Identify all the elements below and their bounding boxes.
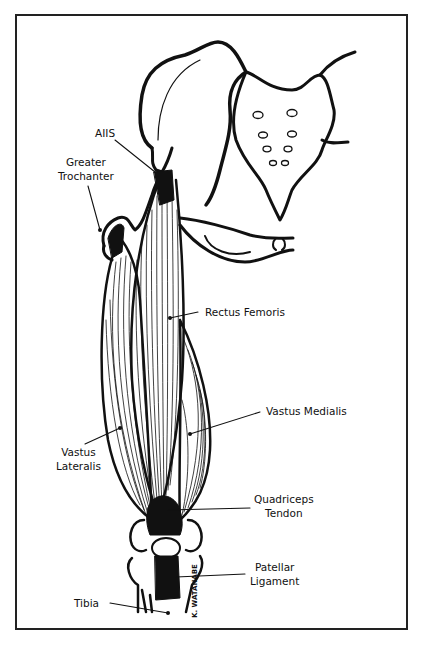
sacral-foramen [263,146,271,152]
label-line: Patellar [250,560,299,574]
label-vastus-medialis: Vastus Medialis [266,404,347,418]
sacral-foramen [282,161,289,166]
label-aiis: AIIS [95,126,115,140]
label-quadriceps-tendon: Quadriceps Tendon [254,492,314,520]
quadriceps-tendon [147,496,182,535]
label-line: Tendon [254,506,314,520]
quadriceps-illustration: K. WATANABE [0,0,421,661]
sacral-foramen [253,112,263,119]
sacral-foramen [287,110,297,117]
sacral-foramen [288,131,297,137]
label-line: Ligament [250,574,299,588]
pubic-ramus-upper [180,218,293,238]
patella [152,538,180,558]
femur-condyle-left [131,520,147,551]
aiis-outline [152,148,172,172]
ilium-crest-inner [158,60,200,140]
label-line: Quadriceps [254,492,314,506]
sacrum-outline [234,72,335,220]
sacral-foramen [270,161,277,166]
sacral-foramen [259,132,268,138]
label-line: Lateralis [56,459,101,473]
tibia-outline-left [128,558,138,612]
label-line: Greater [58,155,114,169]
femur-condyle-right [186,520,202,551]
label-greater-trochanter: Greater Trochanter [58,155,114,183]
sacrum-ala-right [320,52,355,75]
artist-signature: K. WATANABE [191,564,199,618]
label-tibia: Tibia [74,596,99,610]
sacral-foramen [284,146,292,152]
patellar-ligament [155,556,180,600]
label-patellar-ligament: Patellar Ligament [250,560,299,588]
label-rectus-femoris: Rectus Femoris [205,305,285,319]
label-vastus-lateralis: Vastus Lateralis [56,445,101,473]
label-line: Trochanter [58,169,114,183]
label-line: Vastus [56,445,101,459]
vastus-lateralis-origin [108,224,124,258]
sacrum-ala-right-lower [322,140,348,143]
